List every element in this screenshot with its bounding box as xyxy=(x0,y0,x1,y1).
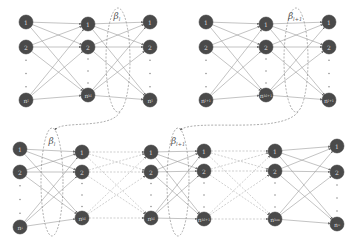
beta-labels-layer: βlβl+1βlβl+1 xyxy=(48,11,303,147)
bottom-chain-network-edge xyxy=(158,218,197,219)
ellipsis-dot xyxy=(328,60,329,61)
ellipsis-dot xyxy=(19,185,20,186)
bottom-chain-network-edge xyxy=(158,171,197,172)
node-label: 2 xyxy=(148,44,152,51)
ellipsis-dot xyxy=(25,73,26,74)
top-left-network-edge xyxy=(94,51,145,90)
top-right-network-edge xyxy=(210,27,261,89)
ellipsis-dots-layer xyxy=(19,58,337,214)
top-right-network-edge xyxy=(273,25,323,45)
bottom-chain-network-edge xyxy=(27,151,76,169)
node-label: 2 xyxy=(18,169,22,176)
ellipsis-dot xyxy=(149,60,150,61)
node-label: 1 xyxy=(86,21,90,28)
ellipsis-dot xyxy=(328,86,329,87)
node-label: 1 xyxy=(335,143,339,150)
bottom-chain-network-edge xyxy=(27,219,75,226)
ellipsis-dot xyxy=(336,184,337,185)
bottom-chain-network-beta-0-label: βl xyxy=(48,136,56,147)
top-right-network-edge xyxy=(213,22,259,24)
top-right-network-edge xyxy=(210,29,261,94)
top-left-network-edge xyxy=(31,27,84,89)
ellipsis-dot xyxy=(150,183,151,184)
bottom-chain-network-edge xyxy=(156,176,199,214)
ellipsis-dot xyxy=(265,70,266,71)
ellipsis-dot xyxy=(274,194,275,195)
top-right-network-edge xyxy=(270,29,324,94)
ellipsis-dot xyxy=(81,206,82,207)
ellipsis-dot xyxy=(25,60,26,61)
bottom-chain-network-edge xyxy=(282,147,330,151)
ellipsis-dot xyxy=(265,58,266,59)
node-label: 2 xyxy=(264,44,268,51)
ellipsis-dot xyxy=(87,82,88,83)
bottom-chain-network-edge xyxy=(155,156,199,212)
bottom-chain-network-edge xyxy=(88,176,145,214)
node-label: 1 xyxy=(24,19,28,26)
bottom-chain-network-edge xyxy=(156,177,199,215)
node-label: 1 xyxy=(273,148,277,155)
connector-curves-layer xyxy=(55,112,298,130)
node-label: 2 xyxy=(204,44,208,51)
top-left-network-edge xyxy=(33,22,81,24)
bottom-chain-network-edge xyxy=(280,151,333,213)
ellipsis-dot xyxy=(87,70,88,71)
node-label: 2 xyxy=(149,169,153,176)
node-label: 2 xyxy=(86,44,90,51)
top-left-network-edge xyxy=(95,96,143,100)
top-left-network-edge xyxy=(95,22,143,24)
ellipsis-dot xyxy=(203,206,204,207)
ellipsis-dot xyxy=(150,206,151,207)
bottom-chain-network-edge xyxy=(282,220,330,224)
ellipsis-dot xyxy=(87,58,88,59)
top-right-network-edge xyxy=(273,22,322,24)
bottom-chain-network-edge xyxy=(282,171,330,172)
connector-curve-0 xyxy=(55,112,120,130)
top-right-network-edge xyxy=(211,51,260,90)
ellipsis-dot xyxy=(274,182,275,183)
ellipsis-dot xyxy=(336,197,337,198)
node-label: 1 xyxy=(80,149,84,156)
ellipsis-dot xyxy=(19,213,20,214)
ellipsis-dot xyxy=(274,206,275,207)
bottom-chain-network-edge xyxy=(158,151,197,152)
node-label: 1 xyxy=(148,19,152,26)
top-left-network-edge xyxy=(94,25,143,45)
ellipsis-dot xyxy=(265,82,266,83)
top-right-network-edge xyxy=(272,51,324,91)
top-right-network-edge xyxy=(271,27,325,89)
ellipsis-dot xyxy=(203,182,204,183)
bottom-chain-network-edge xyxy=(27,149,75,151)
node-label: 2 xyxy=(273,168,277,175)
top-right-network-beta-label: βl+1 xyxy=(287,11,302,22)
ellipsis-dot xyxy=(328,73,329,74)
top-right-network-edge xyxy=(273,26,323,44)
bottom-chain-network-edge xyxy=(26,176,77,214)
ellipsis-dot xyxy=(336,210,337,211)
node-label: 2 xyxy=(202,168,206,175)
bottom-chain-network-edge xyxy=(24,157,77,221)
top-left-network-edge xyxy=(33,96,81,100)
bottom-chain-network-edge xyxy=(281,149,330,169)
ellipsis-dot xyxy=(149,73,150,74)
ellipsis-dot xyxy=(205,86,206,87)
top-right-network-edge xyxy=(213,27,260,45)
bottom-chain-network-edge xyxy=(27,154,76,170)
top-left-network-edge xyxy=(33,26,82,44)
ellipsis-dot xyxy=(81,194,82,195)
node-label: 1 xyxy=(18,146,22,153)
node-label: 1 xyxy=(149,149,153,156)
top-left-network-edge xyxy=(93,27,146,89)
edges-layer xyxy=(24,22,332,226)
ellipsis-dot xyxy=(150,194,151,195)
top-right-network-edge xyxy=(213,96,259,100)
top-left-network-beta-label: βl xyxy=(113,11,121,22)
node-label: 2 xyxy=(24,44,28,51)
nodes-layer: 12nl12nhl12nl12nl+112nhl+112nl+112ni12nh… xyxy=(13,15,344,234)
top-left-network-edge xyxy=(32,51,83,90)
ellipsis-dot xyxy=(81,183,82,184)
ellipsis-dot xyxy=(25,86,26,87)
node-label: 1 xyxy=(202,148,206,155)
bottom-chain-network-edge xyxy=(88,176,145,214)
top-left-network-edge xyxy=(92,29,145,94)
